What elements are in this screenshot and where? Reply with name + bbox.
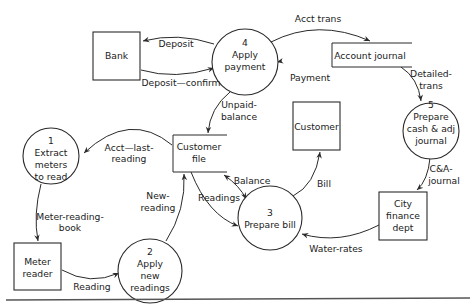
entity-city-line1: City <box>394 198 413 209</box>
flow-label-balance: Balance <box>234 175 271 186</box>
entity-meter-line1: Meter <box>24 256 51 267</box>
flow-label-meter-reading-book-1: Meter-reading- <box>36 211 104 222</box>
entity-meter-line2: reader <box>22 268 52 279</box>
entity-customer: Customer <box>293 102 340 150</box>
process-2-number: 2 <box>147 246 153 257</box>
entity-city-line3: dept <box>393 222 414 233</box>
process-5-number: 5 <box>428 99 434 110</box>
process-5-line1: Prepare <box>413 111 449 122</box>
store-customer-file-line2: file <box>192 153 206 164</box>
entity-city-line2: finance <box>386 210 420 221</box>
flow-label-unpaid-balance-1: Unpaid- <box>221 99 257 110</box>
flow-label-deposit: Deposit <box>158 38 194 49</box>
flow-label-reading: Reading <box>73 281 110 292</box>
flow-label-payment: Payment <box>290 72 331 83</box>
process-1-number: 1 <box>48 135 54 146</box>
bottom-divider <box>6 298 470 300</box>
store-customer-file: Customer file <box>173 135 227 172</box>
flow-reading-arrow <box>62 270 119 279</box>
process-2-line3: readings <box>130 282 170 293</box>
entity-city-finance-dept: City finance dept <box>379 192 427 240</box>
flow-label-acct-last-reading-1: Acct—last- <box>105 142 154 153</box>
entity-bank-label: Bank <box>105 50 129 61</box>
process-4-line1: Apply <box>232 49 259 60</box>
entity-meter-reader: Meter reader <box>14 243 61 290</box>
process-2-line1: Apply <box>137 258 164 269</box>
process-2-apply-new-readings: 2 Apply new readings <box>118 239 182 303</box>
flow-label-new-reading-1: New- <box>146 190 169 201</box>
flow-label-bill: Bill <box>317 178 331 189</box>
store-account-journal: Account journal <box>332 43 412 67</box>
flow-label-ca-journal-2: journal <box>427 175 460 186</box>
flow-label-acct-last-reading-2: reading <box>112 153 147 164</box>
flow-label-ca-journal-1: C&A- <box>430 163 453 174</box>
flow-label-detailed-trans-2: trans <box>419 80 443 91</box>
flow-label-detailed-trans-1: Detailed- <box>410 68 452 79</box>
flow-label-new-reading-2: reading <box>141 202 176 213</box>
flow-bill-arrow <box>293 152 320 196</box>
process-1-line3: to read <box>35 171 68 182</box>
entity-customer-label: Customer <box>294 121 339 132</box>
process-3-prepare-bill: 3 Prepare bill <box>238 186 302 250</box>
store-customer-file-line1: Customer <box>177 141 222 152</box>
process-3-number: 3 <box>267 207 273 218</box>
process-1-extract-meters: 1 Extract meters to read <box>23 128 79 184</box>
flow-acct-trans-arrow <box>271 30 370 42</box>
process-4-apply-payment: 4 Apply payment <box>212 29 278 95</box>
process-5-prepare-cash-adj-journal: 5 Prepare cash & adj journal <box>403 99 459 159</box>
process-2-line2: new <box>141 270 160 281</box>
flow-label-water-rates: Water-rates <box>309 243 363 254</box>
process-1-line2: meters <box>35 159 68 170</box>
store-account-journal-label: Account journal <box>334 50 406 61</box>
flow-label-acct-trans: Acct trans <box>295 13 342 24</box>
process-1-line1: Extract <box>35 147 68 158</box>
process-4-number: 4 <box>242 37 248 48</box>
flow-label-meter-reading-book-2: book <box>59 222 82 233</box>
flow-water-rates-arrow <box>302 225 379 238</box>
entity-bank: Bank <box>93 32 140 80</box>
process-4-line2: payment <box>225 61 266 72</box>
data-flow-diagram: Bank Customer City finance dept Meter re… <box>0 0 475 307</box>
process-5-line2: cash & adj <box>407 123 455 134</box>
flow-label-deposit-confirm: Deposit—confirm <box>141 77 220 88</box>
flow-label-readings: Readings <box>198 192 240 203</box>
process-3-line1: Prepare bill <box>244 219 296 230</box>
flow-deposit-confirm-arrow <box>141 68 214 75</box>
flow-label-unpaid-balance-2: balance <box>221 111 258 122</box>
process-5-line3: journal <box>414 135 447 146</box>
